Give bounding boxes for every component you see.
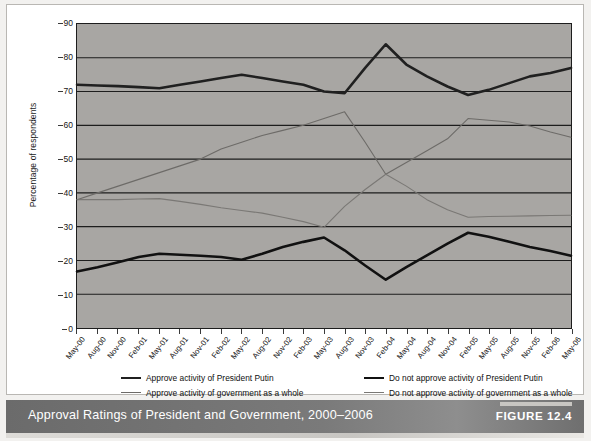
y-tick-mark bbox=[58, 159, 63, 160]
x-tick-mark bbox=[76, 329, 77, 334]
figure-container: Percentage of respondents 01020304050607… bbox=[0, 0, 591, 441]
x-tick-label: May-05 bbox=[477, 335, 500, 361]
x-tick-mark bbox=[469, 329, 470, 334]
figure-card: Percentage of respondents 01020304050607… bbox=[6, 4, 584, 395]
figure-number-label: FIGURE 12.4 bbox=[496, 409, 572, 422]
x-tick-mark bbox=[572, 329, 573, 334]
x-tick-label: Nov-03 bbox=[354, 335, 377, 360]
legend-item[interactable]: Do not approve activity of President Put… bbox=[364, 371, 543, 384]
y-tick-label: 50 bbox=[64, 154, 73, 164]
x-tick-label: Aug-05 bbox=[499, 335, 522, 360]
figure-caption-text: Approval Ratings of President and Govern… bbox=[28, 408, 373, 422]
x-tick-mark bbox=[386, 329, 387, 334]
y-tick-mark bbox=[58, 23, 63, 24]
x-tick-mark bbox=[241, 329, 242, 334]
x-tick-mark bbox=[551, 329, 552, 334]
y-tick-mark bbox=[62, 329, 67, 330]
x-tick-label: May-04 bbox=[395, 335, 418, 361]
x-tick-label: Nov-00 bbox=[106, 335, 129, 360]
y-tick-mark bbox=[58, 193, 63, 194]
x-tick-mark bbox=[448, 329, 449, 334]
x-tick-label: Aug-02 bbox=[251, 335, 274, 360]
x-tick-label: Feb-04 bbox=[375, 335, 397, 360]
series-line-1 bbox=[77, 233, 571, 280]
legend-label: Approve activity of President Putin bbox=[146, 373, 274, 383]
legend-item[interactable]: Approve activity of President Putin bbox=[121, 371, 274, 384]
legend-item[interactable]: Approve activity of government as a whol… bbox=[121, 386, 303, 399]
caption-shadow bbox=[6, 433, 584, 438]
y-tick-mark bbox=[58, 125, 63, 126]
y-tick-mark bbox=[58, 261, 63, 262]
legend-swatch-icon bbox=[121, 392, 141, 393]
x-tick-label: Feb-01 bbox=[127, 335, 149, 360]
x-tick-mark bbox=[221, 329, 222, 334]
x-tick-label: Aug-03 bbox=[333, 335, 356, 360]
y-tick-mark bbox=[58, 227, 63, 228]
y-tick-label: 40 bbox=[64, 188, 73, 198]
x-tick-label: Aug-00 bbox=[85, 335, 108, 360]
y-tick-label: 0 bbox=[68, 324, 73, 334]
y-tick-label: 10 bbox=[64, 290, 73, 300]
series-lines bbox=[77, 24, 571, 328]
series-line-2 bbox=[77, 112, 571, 200]
x-tick-mark bbox=[117, 329, 118, 334]
y-tick-label: 90 bbox=[64, 18, 73, 28]
y-axis-ticklabels: 0102030405060708090 bbox=[45, 23, 73, 329]
plot-wrapper bbox=[76, 23, 572, 329]
y-tick-label: 70 bbox=[64, 86, 73, 96]
x-tick-mark bbox=[531, 329, 532, 334]
x-tick-label: Feb-02 bbox=[209, 335, 231, 360]
legend-label: Approve activity of government as a whol… bbox=[146, 388, 303, 398]
series-line-0 bbox=[77, 44, 571, 95]
x-tick-mark bbox=[303, 329, 304, 334]
figure-caption-bar: Approval Ratings of President and Govern… bbox=[6, 400, 584, 433]
x-tick-mark bbox=[324, 329, 325, 334]
x-tick-mark bbox=[365, 329, 366, 334]
x-tick-mark bbox=[510, 329, 511, 334]
x-tick-mark bbox=[262, 329, 263, 334]
legend-swatch-icon bbox=[121, 377, 141, 379]
legend-swatch-icon bbox=[364, 377, 384, 379]
x-tick-mark bbox=[97, 329, 98, 334]
legend-item[interactable]: Do not approve activity of government as… bbox=[364, 386, 572, 399]
y-tick-label: 60 bbox=[64, 120, 73, 130]
chart-legend: Approve activity of President PutinDo no… bbox=[107, 371, 577, 401]
series-line-3 bbox=[77, 174, 571, 227]
legend-row: Approve activity of President PutinDo no… bbox=[107, 371, 577, 384]
y-tick-mark bbox=[58, 295, 63, 296]
legend-label: Do not approve activity of government as… bbox=[389, 388, 572, 398]
x-tick-label: Nov-05 bbox=[519, 335, 542, 360]
x-tick-mark bbox=[138, 329, 139, 334]
x-tick-label: May-00 bbox=[64, 335, 87, 361]
x-tick-label: Feb-03 bbox=[292, 335, 314, 360]
x-tick-mark bbox=[179, 329, 180, 334]
figure-tag-rule bbox=[500, 402, 572, 406]
y-axis-title: Percentage of respondents bbox=[28, 103, 38, 208]
x-tick-label: May-02 bbox=[229, 335, 252, 361]
x-tick-label: Nov-02 bbox=[271, 335, 294, 360]
legend-swatch-icon bbox=[364, 392, 384, 393]
plot-area bbox=[76, 23, 572, 329]
x-tick-label: Feb-06 bbox=[540, 335, 562, 360]
x-tick-mark bbox=[200, 329, 201, 334]
x-tick-label: Aug-01 bbox=[168, 335, 191, 360]
x-tick-mark bbox=[427, 329, 428, 334]
y-tick-mark bbox=[58, 91, 63, 92]
y-tick-label: 80 bbox=[64, 52, 73, 62]
x-tick-mark bbox=[283, 329, 284, 334]
x-tick-mark bbox=[159, 329, 160, 334]
x-tick-label: Nov-04 bbox=[437, 335, 460, 360]
legend-label: Do not approve activity of President Put… bbox=[389, 373, 543, 383]
x-tick-mark bbox=[407, 329, 408, 334]
x-tick-label: Aug-04 bbox=[416, 335, 439, 360]
x-tick-mark bbox=[345, 329, 346, 334]
x-tick-mark bbox=[489, 329, 490, 334]
y-tick-label: 20 bbox=[64, 256, 73, 266]
y-tick-label: 30 bbox=[64, 222, 73, 232]
x-tick-label: May-06 bbox=[560, 335, 583, 361]
y-tick-mark bbox=[58, 57, 63, 58]
x-tick-label: Feb-05 bbox=[457, 335, 479, 360]
legend-row: Approve activity of government as a whol… bbox=[107, 386, 577, 399]
x-tick-label: Nov-01 bbox=[189, 335, 212, 360]
x-tick-label: May-03 bbox=[312, 335, 335, 361]
